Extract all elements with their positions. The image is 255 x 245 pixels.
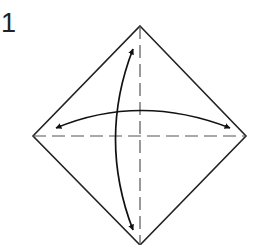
origami-diagram [0,0,255,245]
vertical-fold-unfold-arrow [116,49,134,230]
horizontal-fold-unfold-arrow [56,111,230,129]
